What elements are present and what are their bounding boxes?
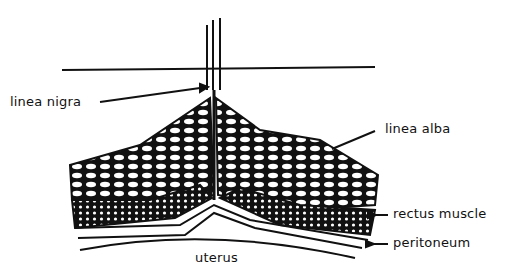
linea-nigra-strands	[207, 18, 220, 90]
label-uterus: uterus	[195, 250, 238, 265]
skin-line	[62, 67, 375, 70]
diagram-canvas: linea nigra linea alba rectus muscle per…	[0, 0, 513, 274]
label-rectus-muscle: rectus muscle	[393, 206, 486, 221]
label-linea-nigra: linea nigra	[10, 94, 81, 109]
label-linea-alba: linea alba	[385, 121, 450, 136]
label-peritoneum: peritoneum	[393, 235, 470, 250]
abdominal-wall-illustration	[0, 0, 513, 274]
